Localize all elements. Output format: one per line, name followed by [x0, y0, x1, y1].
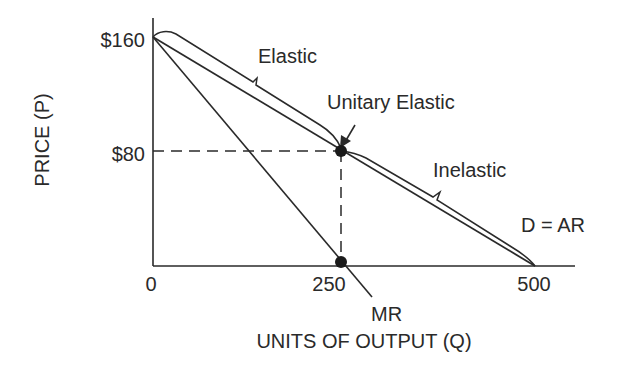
unit-elastic-point — [335, 145, 347, 157]
x-tick-500: 500 — [517, 273, 550, 295]
mr-label: MR — [371, 303, 402, 325]
mr-zero-point — [335, 256, 347, 268]
unitary-elastic-label: Unitary Elastic — [327, 91, 455, 113]
y-axis-title: PRICE (P) — [31, 93, 53, 186]
x-axis-title: UNITS OF OUTPUT (Q) — [256, 330, 471, 352]
inelastic-label: Inelastic — [433, 159, 506, 181]
x-tick-250: 250 — [312, 273, 345, 295]
elastic-label: Elastic — [258, 45, 317, 67]
demand-elasticity-chart: $160 $80 0 250 500 Elastic Unitary Elast… — [0, 0, 632, 376]
y-tick-160: $160 — [101, 29, 146, 51]
y-tick-80: $80 — [112, 143, 145, 165]
demand-label: D = AR — [521, 214, 585, 236]
x-tick-0: 0 — [145, 273, 156, 295]
